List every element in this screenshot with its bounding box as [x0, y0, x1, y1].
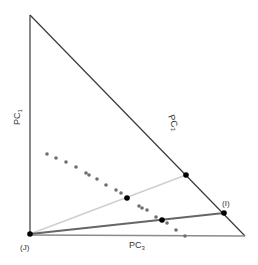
black-point — [124, 195, 130, 201]
black-points — [27, 172, 227, 237]
gray-point — [64, 160, 68, 164]
hypotenuse-edge — [30, 15, 245, 236]
pc2-label: PC2 — [165, 113, 181, 132]
gray-point — [140, 206, 144, 210]
gray-point — [84, 171, 88, 175]
gray-point — [54, 156, 58, 160]
gray-point — [95, 177, 99, 181]
gray-point — [165, 221, 169, 225]
pc3-label: PC3 — [129, 240, 146, 251]
pc1-label: PC1 — [12, 108, 23, 125]
gray-point — [74, 165, 78, 169]
vertex-i-label: (I) — [222, 199, 230, 208]
vertex-j-label: (J) — [20, 243, 30, 252]
gray-point — [87, 173, 91, 177]
gray-point — [114, 188, 118, 192]
bottom-edge — [30, 235, 245, 236]
gray-point — [154, 215, 158, 219]
black-point — [27, 231, 33, 237]
gray-point — [119, 191, 123, 195]
black-point — [159, 217, 165, 223]
gray-point — [183, 234, 187, 238]
gray-point — [137, 204, 141, 208]
gray-point — [104, 183, 108, 187]
ternary-diagram: PC1 PC2 PC3 (J) (I) — [0, 0, 258, 265]
gray-point — [45, 152, 49, 156]
black-point — [221, 210, 227, 216]
gray-point — [174, 228, 178, 232]
gray-point — [145, 208, 149, 212]
black-point — [183, 172, 189, 178]
triangle-edges — [30, 15, 245, 236]
